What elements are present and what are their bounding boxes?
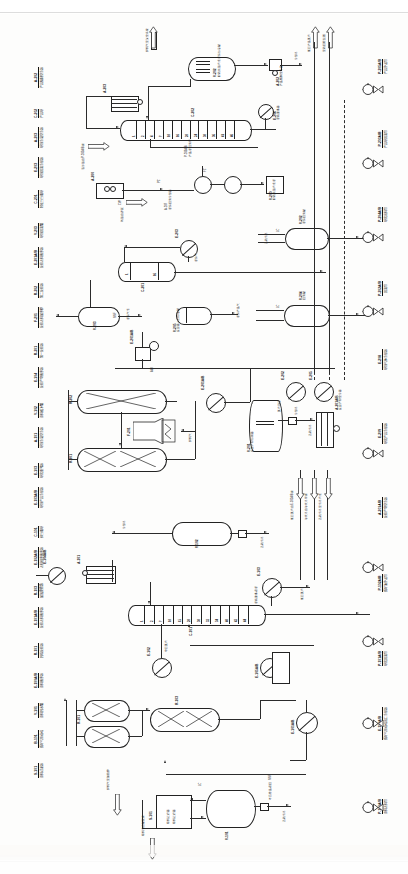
- legend-entry-tag: V-102: [34, 403, 38, 418]
- line: [124, 247, 180, 248]
- line: [190, 645, 314, 646]
- reactor-R-201-bed: [84, 451, 116, 467]
- legend-entry-tag: R-103: [34, 583, 38, 598]
- line: [111, 107, 137, 108]
- line: [111, 99, 137, 100]
- reactor-bed: [92, 729, 120, 743]
- exchanger-E-104: [48, 567, 66, 585]
- tray-divider: [207, 120, 208, 139]
- annotation-sour-water: 含硫污水: [310, 424, 313, 436]
- legend-entry-v-101: V-101原料脱水罐: [34, 703, 44, 718]
- arrow: [310, 418, 313, 420]
- tray-number: 1: [141, 620, 144, 622]
- pump-tag-p-202a-b: P-202A/B回流泵: [378, 281, 388, 296]
- pump-tag-p-204a-b: P-204A/B塔底出料泵: [378, 207, 388, 222]
- fan-hub-icon: [137, 99, 143, 105]
- legend-entry-desc: 反应产物换热器: [40, 367, 44, 388]
- pump-symbol: [362, 560, 384, 578]
- line: [256, 310, 284, 311]
- legend-entry-tag: S-101: [34, 763, 38, 778]
- line: [195, 401, 196, 459]
- arrow: [320, 270, 323, 272]
- arrow: [148, 601, 150, 604]
- vessel-V-101: [206, 790, 256, 828]
- legend-entry-r-201: R-201第一反应器: [34, 343, 44, 358]
- line: [86, 574, 114, 575]
- line: [142, 359, 143, 368]
- legend-entry-desc: 塔顶回流罐: [40, 223, 44, 238]
- pump-tag-desc: 产品塔回流泵: [384, 130, 388, 148]
- pump-tag-e-208: E-208塔顶气体冷却器: [378, 349, 388, 370]
- scan-artifact: [0, 860, 408, 874]
- vessel-V-202b: [285, 228, 329, 250]
- tray-number: 16: [177, 134, 180, 137]
- line: [56, 316, 78, 317]
- line: [306, 732, 307, 760]
- line: [148, 86, 149, 120]
- arrow: [356, 236, 359, 238]
- legend-entry-r-101: R-101脱硫反应器: [34, 643, 44, 658]
- legend-entry-desc: 原料过滤器: [40, 763, 44, 778]
- line: [76, 736, 84, 737]
- exchanger-E-105AB-shell: [272, 652, 290, 684]
- legend-entry-desc: 产品塔: [40, 109, 44, 118]
- fan-hub-icon: [272, 70, 278, 76]
- annotation-stream: 塔顶气: [196, 253, 199, 262]
- equipment-S-101-label: S-101: [150, 811, 153, 820]
- line: [66, 700, 67, 746]
- pump-tag-label: A-201A/B: [378, 497, 382, 518]
- equipment-A-101-label: A-101: [78, 555, 81, 564]
- tray-number: 4: [151, 135, 154, 137]
- arrow: [146, 708, 149, 710]
- line: [161, 624, 162, 658]
- arrow: [190, 798, 193, 800]
- line: [86, 570, 114, 571]
- valve-block: [238, 530, 247, 538]
- line: [115, 368, 335, 369]
- line: [76, 700, 77, 746]
- tray-divider: [191, 605, 192, 624]
- exchanger-E-201AB: [135, 347, 151, 361]
- vessel-V-205: [176, 307, 212, 325]
- reactor-R-103-bed: [158, 711, 184, 727]
- legend-entry-desc: 塔底重沸器: [40, 463, 44, 478]
- reactor-R-202-label: R-202: [70, 395, 73, 404]
- line: [290, 760, 306, 761]
- annotation-stream: 塔顶产品气: [238, 303, 241, 318]
- tray-number: 34: [216, 619, 219, 622]
- stream-flag-f2-label: 低压产品蒸汽: [309, 34, 312, 52]
- annotation-FC: FC: [205, 168, 208, 172]
- pump-tag-desc: 循环气压缩机出口冷却器: [384, 707, 388, 740]
- exchanger-E-205: [314, 382, 334, 402]
- exchanger-node: [224, 176, 242, 194]
- stream-flag-f19-label: 低压蒸汽自E-101A/B来: [292, 490, 295, 520]
- legend-entry-a-202: A-202产品精制空冷器: [34, 67, 44, 88]
- tray-divider: [182, 605, 183, 624]
- tray-divider: [173, 605, 174, 624]
- stream-flag-f1-label: 燃料气至放空系统: [147, 28, 150, 52]
- arrow: [286, 804, 289, 806]
- tray-number: 44: [244, 619, 247, 622]
- tray-divider: [248, 605, 249, 624]
- arrow: [264, 531, 267, 533]
- legend-entry-tag: A-202: [34, 67, 38, 88]
- vessel-V-102-label: V-102: [196, 539, 199, 548]
- stream-label: 冷却水: [296, 51, 299, 60]
- exchanger-E-205-label: E-205: [310, 371, 313, 380]
- legend-entry-tag: E-201A/B: [34, 247, 38, 268]
- legend-entry-desc: 塔顶回流冷却器: [40, 157, 44, 178]
- exchanger-E-201: [206, 393, 226, 413]
- legend-entry-c-201: C-201轻组分分馏塔: [34, 190, 44, 208]
- annotation-lc: LC: [200, 783, 203, 786]
- column-C-201-tray: [158, 262, 159, 280]
- legend-entry-tag: E-100A/B: [34, 673, 38, 688]
- exchanger-E-201AB-label: E-201A/B: [131, 330, 134, 344]
- line: [122, 190, 194, 191]
- arrow: [124, 245, 127, 247]
- annotation-stream: 冷却水: [124, 520, 127, 529]
- line: [250, 129, 276, 130]
- line: [321, 412, 322, 446]
- stream-label: 产品塔回流泵: [190, 139, 193, 157]
- vessel-V-202-internals: [196, 60, 210, 76]
- line: [124, 247, 125, 262]
